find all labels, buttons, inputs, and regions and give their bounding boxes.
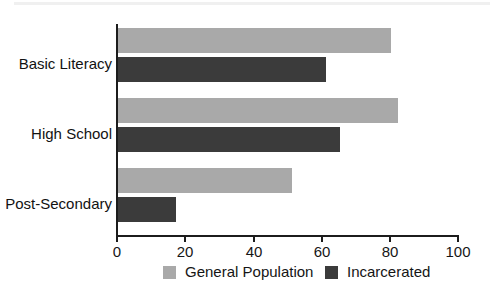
legend-swatch-incarcerated (325, 266, 338, 279)
x-tick-0 (116, 235, 118, 242)
category-label-high-school: High School (31, 125, 112, 143)
x-tick-80 (389, 235, 391, 242)
x-tick-40 (253, 235, 255, 242)
x-tick-label-20: 20 (177, 243, 194, 261)
bar-incarcerated-high-school (118, 127, 340, 152)
category-label-basic-literacy: Basic Literacy (19, 55, 112, 73)
chart-legend: General Population Incarcerated (0, 263, 504, 285)
x-tick-20 (184, 235, 186, 242)
bar-incarcerated-post-secondary (118, 197, 176, 222)
legend-label-incarcerated: Incarcerated (347, 263, 430, 281)
x-tick-label-60: 60 (314, 243, 331, 261)
category-label-post-secondary: Post-Secondary (5, 195, 112, 213)
x-tick-label-80: 80 (382, 243, 399, 261)
legend-item-general-population: General Population (163, 263, 313, 281)
bar-incarcerated-basic-literacy (118, 57, 326, 82)
x-axis-line (116, 235, 459, 237)
scan-artifact (14, 2, 490, 5)
legend-label-general-population: General Population (185, 263, 313, 281)
bar-chart: Basic Literacy High School Post-Secondar… (0, 0, 504, 304)
x-tick-label-100: 100 (445, 243, 470, 261)
bar-general-population-basic-literacy (118, 28, 391, 53)
legend-swatch-general-population (163, 266, 176, 279)
bar-general-population-high-school (118, 98, 398, 123)
x-tick-60 (321, 235, 323, 242)
x-tick-100 (457, 235, 459, 242)
plot-area: 0 20 40 60 80 100 (116, 24, 459, 237)
legend-item-incarcerated: Incarcerated (325, 263, 430, 281)
bar-general-population-post-secondary (118, 168, 292, 193)
x-tick-label-0: 0 (113, 243, 121, 261)
x-tick-label-40: 40 (246, 243, 263, 261)
